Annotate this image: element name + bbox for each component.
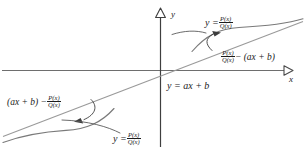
curve-label-bottom-left-denominator: Q(x): [127, 138, 141, 146]
axes-group: [2, 8, 293, 147]
gap-annotation-lower-denominator: Q(x): [47, 101, 61, 109]
curve-label-top-right-denominator: Q(x): [219, 22, 233, 30]
gap-annotation-upper-rhs: − (ax + b): [235, 53, 275, 63]
curve-label-bottom-left: y =P(x)Q(x): [113, 130, 141, 147]
curve-label-bottom-left-numerator: P(x): [127, 132, 141, 139]
leader-curve-top-label: [172, 31, 206, 34]
curve-label-top-right-fraction: P(x)Q(x): [219, 16, 233, 31]
gap-annotation-upper-fraction: P(x)Q(x): [221, 50, 235, 65]
curve-label-top-right-lhs: y =: [205, 18, 219, 28]
leader-curve-bottom-label: [62, 120, 120, 133]
gap-annotation-lower-numerator: P(x): [47, 95, 61, 102]
gap-annotation-lower-fraction: P(x)Q(x): [47, 95, 61, 110]
leader-arrow-upper-gap: [207, 31, 221, 51]
figure-graphics: [0, 0, 307, 155]
curve-label-bottom-left-lhs: y =: [113, 134, 127, 144]
asymptote-line: [3, 22, 303, 137]
asymptote-figure: y x y = ax + b y =P(x)Q(x) P(x)Q(x)− (ax…: [0, 0, 307, 155]
gap-annotation-lower-lhs: (ax + b) −: [7, 98, 47, 108]
gap-annotation-upper-denominator: Q(x): [221, 56, 235, 64]
gap-annotation-upper: P(x)Q(x)− (ax + b): [221, 48, 275, 65]
x-axis-label: x: [289, 74, 293, 84]
curve-label-top-right: y =P(x)Q(x): [205, 14, 233, 31]
line-equation-label: y = ax + b: [167, 81, 209, 91]
y-axis-arrowhead-icon: [156, 8, 166, 18]
leader-arrow-lower-gap: [74, 100, 95, 124]
gap-annotation-lower: (ax + b) −P(x)Q(x): [7, 93, 61, 110]
curve-label-top-right-numerator: P(x): [219, 16, 233, 23]
curve-label-bottom-left-fraction: P(x)Q(x): [127, 132, 141, 147]
y-axis-label: y: [171, 9, 175, 19]
rational-curve-lower-branch: [3, 109, 114, 143]
gap-annotation-upper-numerator: P(x): [221, 50, 235, 57]
